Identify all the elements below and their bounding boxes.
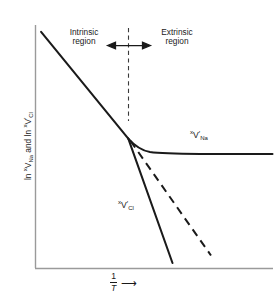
y-label-subscript-1: Na [28, 155, 34, 163]
y-axis-label: ln xVNa and ln xV′Cl [22, 66, 34, 226]
chlorine-vacancy-curve-label: xV′Cl [118, 199, 134, 211]
fraction-denominator: T [110, 284, 117, 293]
one-over-t-fraction: 1 T [110, 272, 117, 292]
x-axis-label: 1 T ⟶ [110, 272, 137, 292]
y-label-conjunction: and ln [23, 128, 33, 155]
intrinsic-region-line2: region [60, 37, 108, 46]
y-label-pre-sup-2: x [22, 125, 28, 128]
extrinsic-region-line2: region [152, 37, 202, 46]
y-label-subscript-2: Cl [28, 112, 34, 118]
y-label-symbol-2: V [23, 119, 33, 125]
plot-canvas [0, 0, 278, 302]
chlorine-vacancy-branch [128, 139, 172, 263]
double-headed-arrow [108, 42, 151, 49]
y-label-symbol-1: V [23, 163, 33, 169]
intrinsic-slope-extension [131, 141, 212, 256]
cl-subscript: Cl [128, 205, 134, 211]
na-subscript: Na [200, 135, 208, 141]
intrinsic-region-label: Intrinsic region [60, 28, 108, 47]
y-label-pre-sup-1: x [22, 168, 28, 171]
fraction-numerator: 1 [110, 272, 117, 281]
defect-concentration-figure: Intrinsic region Extrinsic region xV′Na … [0, 0, 278, 302]
y-label-prefix-1: ln [23, 171, 33, 180]
right-arrow-icon: ⟶ [121, 278, 137, 289]
sodium-vacancy-curve-label: xV′Na [190, 129, 208, 141]
extrinsic-region-label: Extrinsic region [152, 28, 202, 47]
